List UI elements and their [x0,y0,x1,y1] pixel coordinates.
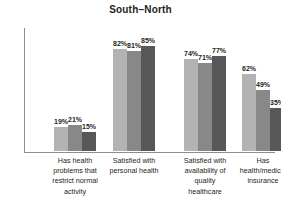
bar[interactable] [113,49,127,151]
bar-value-label: 21% [68,116,82,123]
bar-item[interactable]: 82% [113,27,127,151]
plot-area: 19%21%15%82%81%85%74%71%77%62%49%35% [24,28,275,152]
bar[interactable] [242,74,256,151]
bar-item[interactable]: 21% [68,27,82,151]
bar[interactable] [82,132,96,151]
bar-group: 74%71%77% [184,27,226,151]
bar-item[interactable]: 62% [242,27,256,151]
bar-value-label: 81% [127,42,141,49]
bar-item[interactable]: 35% [270,27,281,151]
bar-item[interactable]: 19% [54,27,68,151]
category-label: Has health/medical insurance [228,156,281,187]
bar[interactable] [141,46,155,151]
bar-group: 62%49%35% [242,27,281,151]
x-axis-line [24,152,275,153]
bar-value-label: 49% [256,81,270,88]
bar-value-label: 74% [184,50,198,57]
bar[interactable] [270,108,281,151]
bar-value-label: 85% [141,37,155,44]
bar[interactable] [184,59,198,151]
bar[interactable] [198,63,212,151]
bar-value-label: 77% [212,47,226,54]
bar-item[interactable]: 81% [127,27,141,151]
bar-value-label: 19% [54,118,68,125]
bar-group: 19%21%15% [54,27,96,151]
category-label: Satisfied with personal health [99,156,169,176]
y-axis-line [24,28,25,152]
chart-title: South–North [0,4,281,15]
bar[interactable] [54,127,68,151]
bar-value-label: 62% [242,65,256,72]
bar[interactable] [256,90,270,151]
bar-item[interactable]: 77% [212,27,226,151]
bar-chart: South–North 19%21%15%82%81%85%74%71%77%6… [0,0,281,213]
bar-value-label: 35% [270,99,281,106]
bar-value-label: 82% [113,40,127,47]
bar-item[interactable]: 49% [256,27,270,151]
bar-item[interactable]: 15% [82,27,96,151]
bar[interactable] [212,56,226,151]
bar-value-label: 71% [198,54,212,61]
bar-group: 82%81%85% [113,27,155,151]
bar-item[interactable]: 74% [184,27,198,151]
bar[interactable] [127,51,141,151]
bar-value-label: 15% [82,123,96,130]
bar-item[interactable]: 71% [198,27,212,151]
bar[interactable] [68,125,82,151]
bar-item[interactable]: 85% [141,27,155,151]
